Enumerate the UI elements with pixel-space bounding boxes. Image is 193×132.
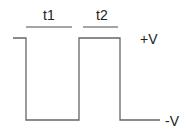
t1-label: t1 — [43, 7, 55, 23]
waveform-line — [13, 38, 160, 120]
waveform — [13, 38, 160, 120]
low-voltage-label: -V — [165, 113, 180, 129]
square-wave-diagram: t1 t2 +V -V — [0, 0, 193, 132]
t2-label: t2 — [96, 7, 108, 23]
high-voltage-label: +V — [140, 31, 158, 47]
